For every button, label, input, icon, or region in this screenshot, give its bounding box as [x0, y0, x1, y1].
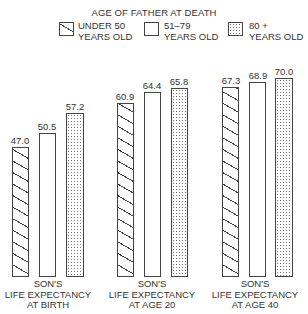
bar-80-plus: [66, 113, 84, 277]
bar-under-50: [12, 147, 29, 277]
legend-label-80-plus: 80 + YEARS OLD: [249, 20, 303, 42]
bar-80-plus: [275, 78, 293, 277]
value-label: 47.0: [5, 135, 35, 146]
x-label-at-birth: SON'S LIFE EXPECTANCY AT BIRTH: [0, 279, 103, 311]
value-label: 67.3: [216, 75, 246, 86]
value-label: 57.2: [60, 101, 90, 112]
bar-under-50: [222, 87, 239, 277]
bar-under-50: [117, 103, 134, 277]
legend-swatch-plain: [144, 22, 159, 36]
legend-title: AGE OF FATHER AT DEATH: [0, 7, 308, 18]
value-label: 64.4: [137, 80, 167, 91]
bar-51-79: [249, 82, 266, 277]
legend-swatch-hatched: [59, 22, 74, 36]
bar-51-79: [144, 92, 161, 277]
x-label-at-age-20: SON'S LIFE EXPECTANCY AT AGE 20: [97, 279, 207, 311]
value-label: 60.9: [110, 91, 140, 102]
value-label: 65.8: [164, 76, 194, 87]
bar-51-79: [39, 133, 56, 277]
x-label-at-age-40: SON'S LIFE EXPECTANCY AT AGE 40: [200, 279, 308, 311]
legend-swatch-dotted: [228, 22, 243, 36]
value-label: 70.0: [269, 66, 299, 77]
legend-label-under-50: UNDER 50 YEARS OLD: [78, 20, 132, 42]
legend-label-51-79: 51–79 YEARS OLD: [164, 20, 218, 42]
value-label: 50.5: [32, 121, 62, 132]
bar-80-plus: [171, 88, 188, 277]
